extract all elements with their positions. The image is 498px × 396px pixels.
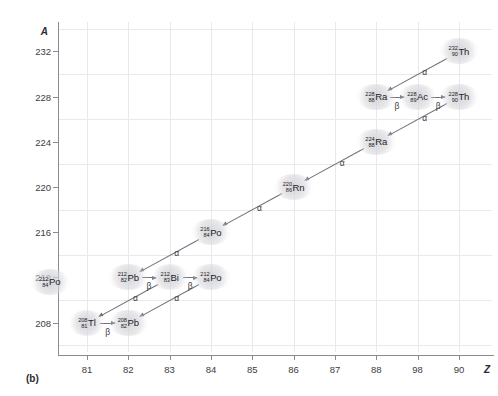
x-axis-tick-label: 87 [330,364,341,375]
nuclide-indices: 22888 [365,91,374,103]
y-axis-tick-label: 208 [35,317,51,328]
nuclide-node-po212_edge: 21284Po [30,269,69,295]
x-axis-tick [211,355,212,360]
gridline-horizontal [58,210,492,211]
y-axis-tick-label: 228 [35,91,51,102]
decay-label-945: α [257,203,262,213]
decay-label-946: β [146,281,151,291]
decay-label-946: β [436,101,441,111]
y-axis-tick-label: 216 [35,227,51,238]
nuclide-indices: 22488 [365,136,374,148]
x-axis-tick-label: 98 [412,364,423,375]
gridline-horizontal [58,164,492,165]
gridline-horizontal [58,345,492,346]
x-axis-tick-label: 84 [206,364,217,375]
nuclide-node-rn220: 22086Rn [274,174,314,200]
gridline-vertical [376,22,377,352]
nuclide-atomic-number: 90 [452,51,458,57]
nuclide-node-po216: 21684Po [191,219,230,245]
x-axis-title: Z [484,364,490,375]
nuclide-node-th228: 22890Th [440,84,479,110]
nuclide-node-pb208: 20882Pb [109,310,148,336]
decay-label-945: α [174,248,179,258]
x-axis-tick [459,355,460,360]
x-axis-tick-label: 88 [371,364,382,375]
x-axis-tick-label: 90 [454,364,465,375]
nuclide-indices: 21282 [118,271,127,283]
gridline-horizontal [58,29,492,30]
gridline-horizontal [58,300,492,301]
gridline-vertical [211,22,212,352]
x-axis-tick-label: 86 [288,364,299,375]
nuclide-atomic-number: 88 [368,142,374,148]
nuclide-atomic-number: 82 [121,277,127,283]
nuclide-atomic-number: 81 [81,323,87,329]
nuclide-atomic-number: 86 [286,187,292,193]
nuclide-symbol: Po [210,272,221,283]
y-axis-tick-label: 220 [35,182,51,193]
figure-caption: (b) [26,373,39,384]
nuclide-symbol: Ra [375,136,387,147]
nuclide-symbol: Po [49,276,60,287]
x-axis-tick [294,355,295,360]
nuclide-indices: 20882 [118,317,127,329]
x-axis-tick [170,355,171,360]
x-axis-tick-label: 83 [164,364,175,375]
x-axis-tick-label: 82 [123,364,134,375]
nuclide-indices: 21283 [161,271,170,283]
y-axis-tick [53,97,58,98]
nuclide-symbol: Th [458,91,469,102]
nuclide-node-ac228: 22889Ac [398,84,437,110]
nuclide-atomic-number: 84 [203,232,209,238]
x-axis-tick [376,355,377,360]
gridline-vertical [170,22,171,352]
nuclide-indices: 21284 [39,276,48,288]
nuclide-atomic-number: 84 [203,277,209,283]
nuclide-indices: 20881 [78,317,87,329]
gridline-vertical [252,22,253,352]
gridline-vertical [128,22,129,352]
gridline-vertical [87,22,88,352]
decay-label-945: α [133,293,138,303]
decay-chain-figure: 232228224220216212208 818283848586878898… [0,0,498,396]
nuclide-symbol: Ac [417,91,428,102]
decay-label-945: α [422,113,427,123]
nuclide-symbol: Ra [375,91,387,102]
y-axis-title: A [41,26,48,37]
x-axis-tick-label: 85 [247,364,258,375]
decay-label-945: α [340,158,345,168]
nuclide-symbol: Po [210,227,221,238]
nuclide-symbol: Rn [293,182,305,193]
nuclide-indices: 22086 [283,181,292,193]
y-axis: 232228224220216212208 [58,22,59,356]
y-axis-tick-label: 224 [35,136,51,147]
nuclide-node-th232: 23290Th [440,38,479,64]
nuclide-node-tl208: 20881Tl [69,310,105,336]
nuclide-indices: 21684 [200,226,209,238]
x-axis-tick [87,355,88,360]
decay-label-946: β [394,101,399,111]
x-axis: 81828384858687889890 [58,355,494,356]
nuclide-atomic-number: 90 [452,97,458,103]
nuclide-symbol: Th [458,46,469,57]
nuclide-symbol: Tl [88,317,96,328]
y-axis-tick [53,323,58,324]
nuclide-atomic-number: 89 [410,97,416,103]
nuclide-node-ra224: 22488Ra [356,129,396,155]
nuclide-symbol: Bi [170,272,178,283]
nuclide-symbol: Pb [127,272,138,283]
decay-label-945: α [174,293,179,303]
nuclide-node-ra228: 22888Ra [356,84,396,110]
y-axis-tick-label: 232 [35,46,51,57]
nuclide-atomic-number: 82 [121,323,127,329]
nuclide-indices: 21284 [200,271,209,283]
nuclide-atomic-number: 84 [42,282,48,288]
x-axis-tick [335,355,336,360]
nuclide-indices: 22889 [407,91,416,103]
y-axis-tick [53,142,58,143]
decay-label-946: β [188,281,193,291]
y-axis-tick [53,232,58,233]
y-axis-tick [53,187,58,188]
gridline-vertical [459,22,460,352]
nuclide-node-pb212: 21282Pb [109,264,148,290]
